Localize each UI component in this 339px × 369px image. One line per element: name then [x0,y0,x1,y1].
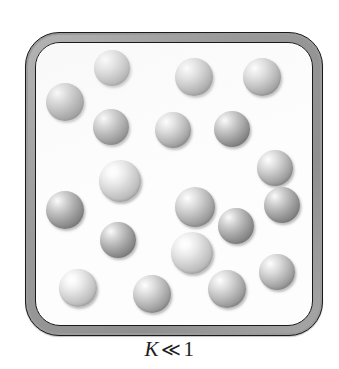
molecule-sphere [171,232,213,274]
molecule-sphere [214,111,250,147]
molecule-sphere [46,191,84,229]
figure-container: K≪1 [0,0,339,369]
molecule-sphere [94,50,130,86]
molecule-sphere [100,222,136,258]
molecule-sphere [155,112,191,148]
caption-value: 1 [183,337,194,361]
molecule-sphere [59,269,97,307]
molecule-sphere [259,254,295,290]
vessel-interior [35,42,313,326]
molecule-sphere [264,187,300,223]
molecule-sphere [257,150,293,186]
molecule-sphere [175,58,213,96]
molecule-sphere [99,160,141,202]
molecule-sphere [133,275,171,313]
caption-equilibrium-constant: K≪1 [0,339,339,360]
particle-layer [36,43,312,325]
molecule-sphere [243,58,281,96]
molecule-sphere [208,270,246,308]
molecule-sphere [46,83,84,121]
molecule-sphere [93,109,129,145]
caption-relation-much-less-than: ≪ [159,338,183,360]
reaction-vessel [25,32,323,336]
molecule-sphere [175,187,215,227]
molecule-sphere [218,208,254,244]
caption-symbol: K [145,337,160,361]
